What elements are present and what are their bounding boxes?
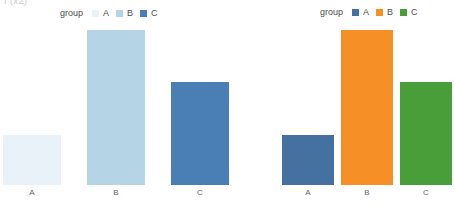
legend-entry-b[interactable]: B [376, 7, 393, 17]
legend-entry-c[interactable]: C [140, 8, 158, 18]
plot-area-right [262, 28, 454, 185]
x-tick-b: B [341, 188, 393, 197]
legend-label-c: C [151, 8, 158, 18]
bar-b[interactable] [87, 30, 145, 185]
bar-slot-b [341, 28, 393, 185]
x-tick-c: C [171, 188, 229, 197]
legend-title: group [320, 7, 343, 17]
x-axis-right: A B C [262, 188, 454, 197]
x-tick-c: C [400, 188, 452, 197]
bar-slot-a [282, 28, 334, 185]
legend-entry-a[interactable]: A [352, 7, 369, 17]
bar-a[interactable] [3, 135, 61, 185]
legend-swatch-a [92, 10, 99, 17]
legend-label-a: A [363, 7, 369, 17]
legend-swatch-b [376, 9, 383, 16]
legend-entry-a[interactable]: A [92, 8, 109, 18]
bar-slot-c [171, 28, 229, 185]
x-tick-a: A [282, 188, 334, 197]
legend-title: group [60, 8, 83, 18]
legend-right: group A B C [320, 6, 418, 18]
x-tick-a: A [3, 188, 61, 197]
plot-area-left [0, 28, 232, 185]
x-tick-b: B [87, 188, 145, 197]
bar-c[interactable] [400, 82, 452, 185]
legend-swatch-b [116, 10, 123, 17]
legend-label-a: A [103, 8, 109, 18]
chart-panel-left: group A B C A B C [0, 0, 232, 211]
legend-label-b: B [387, 7, 393, 17]
legend-swatch-c [400, 9, 407, 16]
bar-c[interactable] [171, 82, 229, 185]
x-axis-left: A B C [0, 188, 232, 197]
legend-left: group A B C [60, 7, 158, 19]
bar-group-left [0, 28, 232, 185]
bar-a[interactable] [282, 135, 334, 185]
legend-entry-b[interactable]: B [116, 8, 133, 18]
bar-slot-c [400, 28, 452, 185]
chart-panel-right: group A B C A B C [262, 0, 454, 211]
bar-group-right [262, 28, 454, 185]
legend-label-b: B [127, 8, 133, 18]
legend-swatch-a [352, 9, 359, 16]
bar-slot-a [3, 28, 61, 185]
legend-label-c: C [411, 7, 418, 17]
bar-b[interactable] [341, 30, 393, 185]
legend-entry-c[interactable]: C [400, 7, 418, 17]
bar-slot-b [87, 28, 145, 185]
legend-swatch-c [140, 10, 147, 17]
